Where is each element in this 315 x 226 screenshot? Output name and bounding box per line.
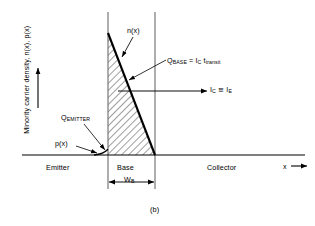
- transistor-carrier-diagram: [0, 0, 315, 226]
- figure-container: Minority carrier density, n(x), p(x) n(x…: [0, 0, 315, 226]
- q-base-leader-line: [129, 60, 166, 80]
- q-base-term2-subscript: transit: [206, 59, 221, 65]
- y-axis-label: Minority carrier density, n(x), p(x): [23, 5, 31, 155]
- p-of-x-leader-line: [76, 146, 97, 153]
- q-base-term1-subscript: C: [198, 59, 202, 65]
- region-label-collector: Collector: [207, 164, 236, 172]
- base-width-label: WB: [124, 176, 134, 184]
- ic-subscript: C: [212, 88, 216, 94]
- collector-current-annotation: IC ≅ IE: [210, 86, 232, 94]
- q-emitter-symbol: Q: [61, 113, 67, 122]
- q-base-equals: =: [189, 56, 193, 65]
- q-base-annotation: QBASE = IC ttransit: [167, 57, 221, 65]
- q-base-subscript: BASE: [173, 59, 187, 65]
- figure-caption: (b): [150, 206, 159, 214]
- current-relation-symbol: ≅: [218, 85, 224, 94]
- region-label-emitter: Emitter: [46, 164, 69, 172]
- q-emitter-subscript: EMITTER: [67, 116, 90, 122]
- base-width-symbol: W: [124, 175, 131, 184]
- base-width-subscript: B: [131, 178, 135, 184]
- q-emitter-leader-line: [84, 124, 105, 150]
- region-label-base: Base: [117, 164, 134, 172]
- p-of-x-label: p(x): [55, 140, 68, 148]
- q-emitter-annotation: QEMITTER: [61, 114, 90, 122]
- ie-subscript: E: [228, 88, 232, 94]
- q-base-symbol: Q: [167, 56, 173, 65]
- n-of-x-label: n(x): [127, 27, 140, 35]
- x-axis-label: x: [283, 163, 287, 171]
- n-of-x-leader-line: [122, 37, 133, 57]
